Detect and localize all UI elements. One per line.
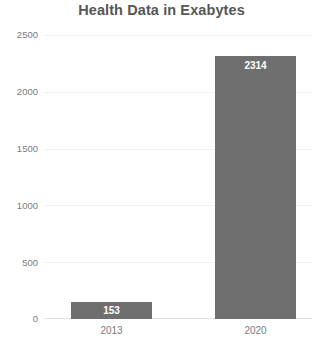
y-axis-tick-label-2500: 2500 (2, 30, 38, 40)
bar-2013[interactable]: 153 (71, 302, 152, 319)
gridline-2500 (44, 35, 312, 36)
y-axis-tick-label-1500: 1500 (2, 144, 38, 154)
y-axis-tick-label-2000: 2000 (2, 87, 38, 97)
y-axis-tick-label-500: 500 (2, 258, 38, 268)
y-axis-tick-label-0: 0 (2, 314, 38, 324)
y-axis-tick-label-1000: 1000 (2, 201, 38, 211)
x-axis-tick-label-2013: 2013 (71, 325, 152, 336)
bar-chart: Health Data in Exabytes 2500 2000 1500 1… (0, 0, 323, 345)
bar-value-label-2013: 153 (71, 305, 152, 316)
chart-title: Health Data in Exabytes (0, 2, 323, 18)
bar-value-label-2020: 2314 (215, 60, 296, 71)
x-axis-tick-label-2020: 2020 (215, 325, 296, 336)
bar-2020[interactable]: 2314 (215, 56, 296, 319)
plot-area: 153 2314 (44, 35, 312, 319)
